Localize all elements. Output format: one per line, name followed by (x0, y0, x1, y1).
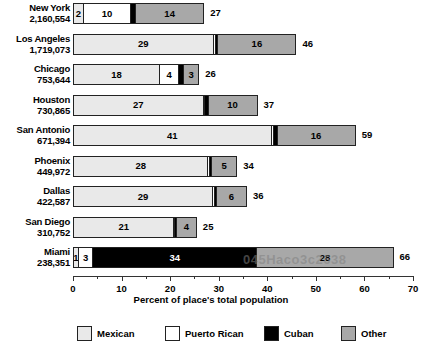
bar-segment-mexican: 21 (74, 218, 174, 237)
segment-value-label: 34 (170, 253, 181, 263)
city-name: San Antonio (0, 124, 70, 135)
segment-value-label: 14 (164, 9, 175, 19)
city-name: Phoenix (0, 155, 70, 166)
row-label-miami: Miami238,351 (0, 246, 70, 268)
city-population: 310,752 (0, 227, 70, 238)
segment-value-label: 3 (188, 70, 193, 80)
legend-item-cuban[interactable]: Cuban (264, 326, 314, 341)
segment-value-label: 18 (111, 70, 122, 80)
chart-row-san-antonio: San Antonio671,394411659 (0, 124, 422, 150)
city-name: Chicago (0, 63, 70, 74)
city-population: 1,719,073 (0, 44, 70, 55)
stacked-bar-chart: New York2,160,5542101427Los Angeles1,719… (0, 0, 422, 353)
segment-value-label: 2 (76, 9, 81, 19)
segment-value-label: 28 (320, 253, 331, 263)
segment-value-label: 16 (252, 39, 263, 49)
legend-label: Other (361, 328, 386, 339)
chart-legend: MexicanPuerto RicanCubanOther (0, 326, 422, 348)
stacked-bar-chicago: 1843 (73, 64, 199, 85)
segment-value-label: 10 (227, 100, 238, 110)
segment-value-label: 29 (138, 192, 149, 202)
segment-value-label: 16 (311, 131, 322, 141)
axis-tick-major (170, 276, 171, 281)
axis-tick-label: 30 (213, 283, 224, 294)
bar-segment-mexican: 2 (74, 4, 84, 23)
segment-value-label: 5 (222, 161, 227, 171)
legend-item-puerto-rican[interactable]: Puerto Rican (165, 326, 244, 341)
axis-tick-minor (292, 276, 293, 279)
row-label-new-york: New York2,160,554 (0, 2, 70, 24)
bar-segment-other: 10 (209, 96, 257, 115)
bar-segment-other: 3 (184, 65, 198, 84)
axis-tick-major (219, 276, 220, 281)
chart-row-new-york: New York2,160,5542101427 (0, 2, 422, 28)
bar-segment-mexican: 29 (74, 35, 214, 54)
segment-value-label: 10 (102, 9, 113, 19)
city-population: 671,394 (0, 135, 70, 146)
bar-segment-mexican: 18 (74, 65, 160, 84)
city-name: New York (0, 2, 70, 13)
chart-row-phoenix: Phoenix449,97228534 (0, 155, 422, 181)
axis-tick-major (316, 276, 317, 281)
stacked-bar-phoenix: 285 (73, 156, 237, 177)
segment-value-label: 41 (167, 131, 178, 141)
bar-segment-other: 14 (136, 4, 203, 23)
row-total-san-antonio: 59 (362, 130, 373, 140)
bar-segment-other: 5 (212, 157, 236, 176)
legend-swatch-puerto-rican (165, 326, 180, 341)
stacked-bar-dallas: 296 (73, 186, 247, 207)
legend-item-other[interactable]: Other (341, 326, 386, 341)
stacked-bar-new-york: 21014 (73, 3, 204, 24)
axis-tick-minor (146, 276, 147, 279)
segment-value-label: 29 (138, 39, 149, 49)
legend-label: Cuban (284, 328, 314, 339)
bar-segment-puerto-rican: 4 (160, 65, 179, 84)
stacked-bar-san-antonio: 4116 (73, 125, 356, 146)
chart-row-dallas: Dallas422,58729636 (0, 185, 422, 211)
bar-segment-other: 28 (257, 248, 392, 267)
bar-segment-mexican: 27 (74, 96, 204, 115)
axis-tick-minor (340, 276, 341, 279)
stacked-bar-miami: 133428 (73, 247, 394, 268)
chart-row-san-diego: San Diego310,75221425 (0, 216, 422, 242)
axis-tick-minor (389, 276, 390, 279)
row-total-miami: 66 (400, 252, 411, 262)
legend-item-mexican[interactable]: Mexican (77, 326, 135, 341)
bar-segment-puerto-rican: 10 (84, 4, 132, 23)
stacked-bar-houston: 2710 (73, 95, 258, 116)
legend-label: Mexican (97, 328, 135, 339)
bar-segment-mexican: 29 (74, 187, 213, 206)
axis-tick-label: 60 (359, 283, 370, 294)
axis-tick-major (267, 276, 268, 281)
row-label-san-diego: San Diego310,752 (0, 216, 70, 238)
bar-segment-mexican: 41 (74, 126, 272, 145)
row-total-phoenix: 34 (243, 161, 254, 171)
bar-segment-other: 16 (218, 35, 295, 54)
row-label-chicago: Chicago753,644 (0, 63, 70, 85)
city-name: Houston (0, 94, 70, 105)
city-name: Los Angeles (0, 33, 70, 44)
axis-tick-major (413, 276, 414, 281)
axis-tick-label: 10 (116, 283, 127, 294)
row-label-houston: Houston730,865 (0, 94, 70, 116)
stacked-bar-los-angeles: 2916 (73, 34, 296, 55)
row-total-new-york: 27 (210, 8, 221, 18)
row-label-los-angeles: Los Angeles1,719,073 (0, 33, 70, 55)
city-name: Miami (0, 246, 70, 257)
chart-row-los-angeles: Los Angeles1,719,073291646 (0, 33, 422, 59)
bar-segment-other: 6 (217, 187, 246, 206)
row-label-dallas: Dallas422,587 (0, 185, 70, 207)
axis-tick-major (73, 276, 74, 281)
x-axis-title: Percent of place's total population (0, 294, 422, 305)
city-population: 422,587 (0, 196, 70, 207)
axis-tick-label: 40 (262, 283, 273, 294)
city-population: 2,160,554 (0, 13, 70, 24)
stacked-bar-san-diego: 214 (73, 217, 197, 238)
row-total-los-angeles: 46 (302, 39, 313, 49)
chart-row-chicago: Chicago753,644184326 (0, 63, 422, 89)
bar-segment-mexican: 28 (74, 157, 208, 176)
city-population: 753,644 (0, 74, 70, 85)
row-total-san-diego: 25 (203, 222, 214, 232)
axis-tick-major (364, 276, 365, 281)
bar-segment-other: 4 (177, 218, 196, 237)
